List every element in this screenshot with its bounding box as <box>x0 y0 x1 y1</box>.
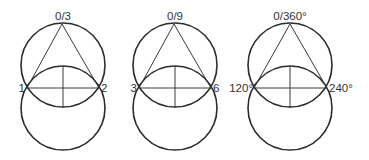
left-label: 3 <box>131 82 137 94</box>
top-label: 0/9 <box>167 10 183 22</box>
right-label: 6 <box>213 82 219 94</box>
right-label: 240° <box>329 82 353 94</box>
diagram-canvas: 0/3 1 2 0/9 3 6 0/360° 120° 240° <box>0 0 369 160</box>
diagram-cycle-3: 0/3 1 2 <box>19 10 108 150</box>
right-label: 2 <box>101 82 107 94</box>
left-label: 1 <box>19 82 25 94</box>
diagram-cycle-360: 0/360° 120° 240° <box>229 10 353 150</box>
left-label: 120° <box>229 82 253 94</box>
vesica-triangle-diagrams: 0/3 1 2 0/9 3 6 0/360° 120° 240° <box>0 0 369 160</box>
diagram-cycle-9: 0/9 3 6 <box>131 10 220 150</box>
top-label: 0/3 <box>55 10 71 22</box>
top-label: 0/360° <box>273 10 306 22</box>
